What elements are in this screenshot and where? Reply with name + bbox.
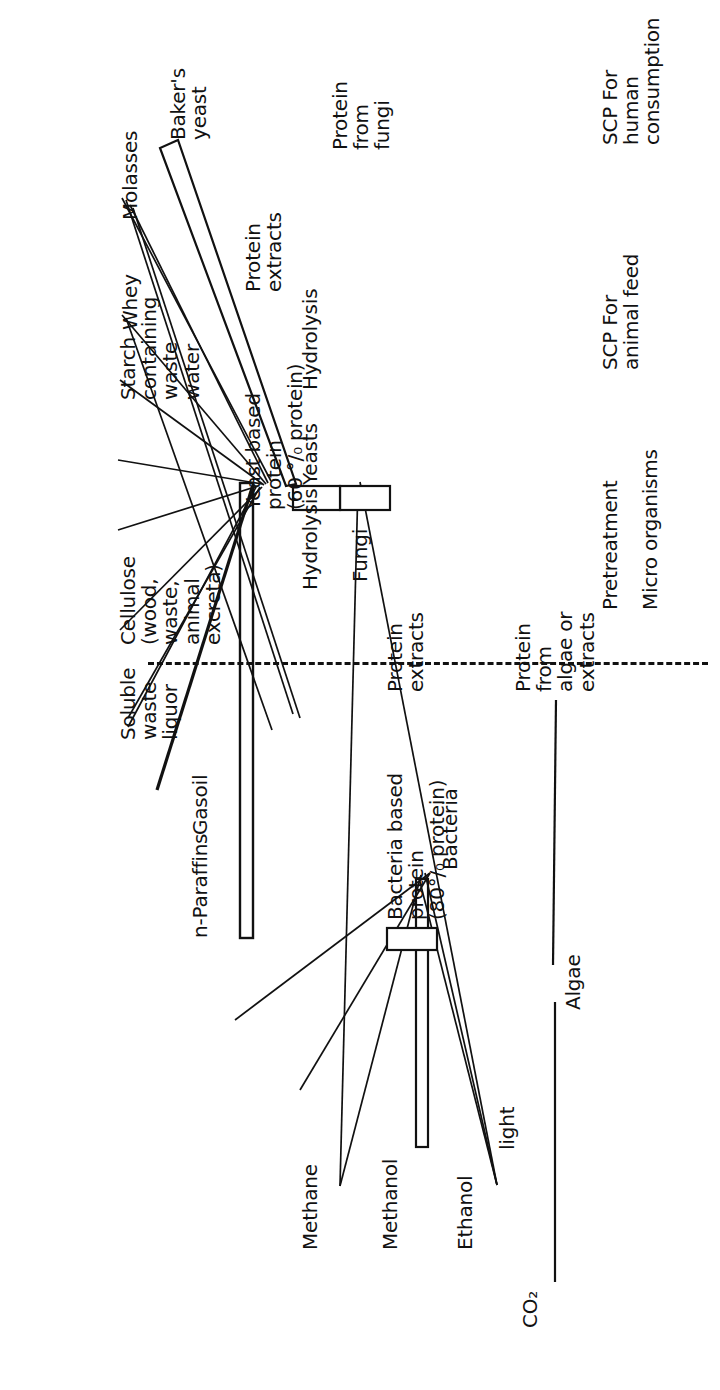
- link-methane-yeasts: [340, 485, 358, 1186]
- box-yeast-protein-upper: [340, 486, 390, 510]
- link-methane-bacteria: [340, 875, 421, 1186]
- product-protein-extracts-yeast: Protein extracts: [243, 212, 285, 292]
- product-protein-extracts-bacteria: Protein extracts: [385, 612, 427, 692]
- organism-algae: Algae: [563, 955, 584, 1011]
- product-protein-from-algae: Protein from algae or extracts: [513, 612, 598, 692]
- substrate-ethanol: Ethanol: [455, 1176, 476, 1250]
- organism-fungi: Fungi: [350, 529, 371, 582]
- flow-lines: [0, 0, 720, 1390]
- figure-canvas: CO₂ light Algae Protein from algae or ex…: [0, 0, 720, 1390]
- substrate-cellulose: Cellulose (wood, waste, animal excreta): [118, 556, 224, 645]
- substrate-methane: Methane: [300, 1164, 321, 1250]
- substrate-whey: Whey: [120, 274, 141, 330]
- process-light: light: [497, 1107, 518, 1150]
- substrate-co2: CO₂: [520, 1291, 541, 1328]
- row-label-micro-organisms: Micro organisms: [640, 449, 661, 610]
- duct-nparaffins-yeasts: [240, 483, 253, 938]
- product-protein-from-fungi: Protein from fungi: [330, 81, 394, 150]
- row-label-pretreatment: Pretreatment: [600, 480, 621, 610]
- section-divider: [148, 662, 708, 665]
- process-hydrolysis-cellulose: Hydrolysis: [300, 489, 321, 590]
- product-bakers-yeast: Baker's yeast: [168, 68, 210, 140]
- substrate-gasoil: Gasoil: [190, 775, 211, 835]
- substrate-methanol: Methanol: [380, 1159, 401, 1250]
- box-bacteria-protein: [387, 928, 437, 950]
- product-bacteria-based-protein: Bacteria based protein (80°/₀ protein): [385, 773, 449, 920]
- link-algae-protein: [553, 700, 556, 965]
- substrate-molasses: Molasses: [120, 131, 141, 220]
- link-ethanol-bacteria-2: [419, 878, 497, 1185]
- rotated-diagram: CO₂ light Algae Protein from algae or ex…: [0, 0, 720, 1390]
- substrate-soluble-waste-liquor: Soluble waste liquor: [118, 668, 182, 740]
- substrate-n-paraffins: n-Paraffins: [190, 834, 211, 938]
- row-label-scp-animal-feed: SCP For animal feed: [600, 254, 642, 370]
- process-hydrolysis-starch: Hydrolysis: [300, 289, 321, 390]
- row-label-scp-human: SCP For human consumption: [600, 0, 664, 145]
